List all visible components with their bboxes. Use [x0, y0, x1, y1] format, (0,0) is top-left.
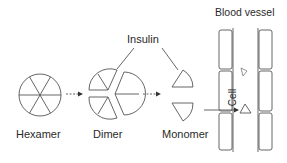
label-dimer: Dimer	[93, 128, 122, 140]
insulin-pointer-monomer	[162, 48, 178, 70]
label-cell: Cell	[227, 78, 238, 118]
monomer-in-blood	[241, 68, 247, 76]
insulin-pointer-dimer	[117, 48, 134, 69]
label-insulin: Insulin	[127, 33, 159, 45]
label-monomer: Monomer	[162, 128, 208, 140]
monomer-shape	[172, 70, 193, 121]
monomer-in-blood	[240, 104, 251, 113]
dimer-shape	[89, 69, 146, 119]
label-hexamer: Hexamer	[16, 128, 61, 140]
hexamer-shape	[19, 74, 61, 116]
label-blood-vessel: Blood vessel	[215, 6, 275, 18]
